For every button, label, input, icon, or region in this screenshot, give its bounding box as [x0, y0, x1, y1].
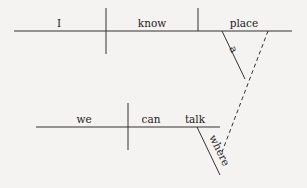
word-object-place: place [230, 17, 258, 29]
modifier-line-a [222, 31, 245, 79]
word-subject-we: we [76, 113, 91, 125]
diagram-svg: I know place a we can talk where [0, 0, 307, 188]
word-modifier-where: where [207, 133, 232, 168]
word-subject-i: I [57, 17, 61, 29]
sentence-diagram: I know place a we can talk where [0, 0, 307, 188]
word-verb-talk: talk [185, 113, 206, 125]
word-verb-can: can [142, 113, 161, 125]
word-verb-know: know [138, 17, 166, 29]
